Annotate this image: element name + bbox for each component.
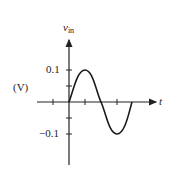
unit-label: (V) (13, 82, 28, 93)
ytick-label-pos: 0.1 (46, 64, 60, 75)
x-axis-label: t (159, 96, 162, 107)
y-axis-label: vin (63, 22, 74, 35)
ytick-label-neg: −0.1 (39, 128, 59, 139)
